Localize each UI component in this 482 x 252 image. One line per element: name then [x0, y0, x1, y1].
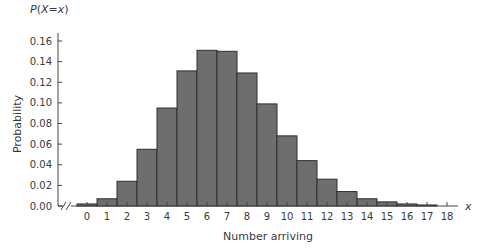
x-tick-label: 7 [224, 211, 230, 222]
x-tick-label: 8 [244, 211, 250, 222]
y-tick-label: 0.10 [30, 97, 52, 108]
y-axis-top-label: P(X=x) [30, 3, 69, 16]
y-tick-label: 0.12 [30, 77, 52, 88]
bar-x-3 [137, 149, 157, 206]
x-tick-label: 16 [401, 211, 414, 222]
y-tick-label: 0.14 [30, 56, 52, 67]
x-tick-label: 2 [124, 211, 130, 222]
x-axis-end-label: x [464, 200, 472, 213]
bar-x-12 [317, 179, 337, 206]
probability-histogram: 0.000.020.040.060.080.100.120.140.160123… [0, 0, 482, 252]
bar-x-4 [157, 108, 177, 206]
y-tick-label: 0.00 [30, 201, 52, 212]
x-tick-label: 5 [184, 211, 190, 222]
bar-x-7 [217, 51, 237, 206]
x-tick-label: 0 [84, 211, 90, 222]
bar-x-11 [297, 161, 317, 206]
x-tick-label: 14 [361, 211, 374, 222]
y-axis-title: Probability [11, 94, 24, 153]
x-tick-label: 13 [341, 211, 354, 222]
x-tick-label: 12 [321, 211, 334, 222]
x-tick-label: 9 [264, 211, 270, 222]
bar-x-9 [257, 104, 277, 206]
y-tick-label: 0.02 [30, 180, 52, 191]
bar-x-8 [237, 73, 257, 206]
x-axis-title: Number arriving [223, 230, 313, 243]
x-tick-label: 6 [204, 211, 210, 222]
bar-x-6 [197, 50, 217, 206]
y-tick-label: 0.16 [30, 36, 52, 47]
y-tick-label: 0.08 [30, 118, 52, 129]
x-tick-label: 17 [421, 211, 434, 222]
bars-group [77, 50, 437, 206]
bar-x-5 [177, 71, 197, 206]
x-tick-label: 15 [381, 211, 394, 222]
x-tick-label: 11 [301, 211, 314, 222]
x-tick-label: 18 [441, 211, 454, 222]
bar-x-10 [277, 136, 297, 206]
axis-break-mark [66, 202, 71, 210]
x-tick-label: 10 [281, 211, 294, 222]
y-tick-label: 0.04 [30, 159, 52, 170]
x-tick-label: 4 [164, 211, 170, 222]
x-tick-label: 1 [104, 211, 110, 222]
x-tick-label: 3 [144, 211, 150, 222]
y-tick-label: 0.06 [30, 139, 52, 150]
